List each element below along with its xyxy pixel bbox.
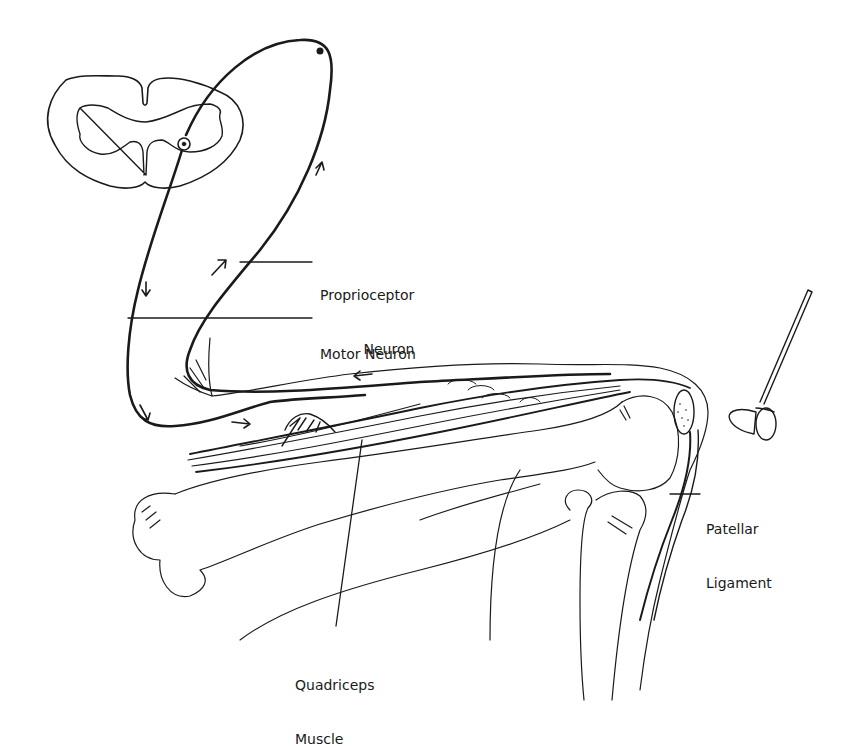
- label-line: Patellar: [706, 520, 772, 538]
- leg-outline: [240, 484, 570, 640]
- label-line: Muscle: [295, 730, 375, 748]
- tibia-fibula: [490, 470, 646, 700]
- label-line: Proprioceptor: [320, 286, 414, 304]
- label-motor-neuron: Motor Neuron: [320, 309, 416, 381]
- spinal-cord-icon: [48, 76, 243, 188]
- femur-bone: [133, 396, 679, 597]
- label-quadriceps-muscle: Quadriceps Muscle: [295, 640, 375, 748]
- patella: [640, 390, 698, 620]
- label-patellar-ligament: Patellar Ligament: [706, 484, 772, 610]
- label-line: Motor Neuron: [320, 345, 416, 363]
- label-line: Quadriceps: [295, 676, 375, 694]
- reflex-hammer-icon: [729, 290, 812, 440]
- label-line: Ligament: [706, 574, 772, 592]
